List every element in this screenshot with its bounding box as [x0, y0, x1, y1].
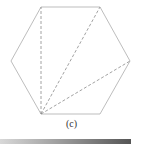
diagonal-2	[41, 7, 100, 114]
diagonal-3	[41, 61, 130, 114]
gradient-bar	[0, 139, 131, 144]
figure-caption: (c)	[0, 118, 143, 129]
